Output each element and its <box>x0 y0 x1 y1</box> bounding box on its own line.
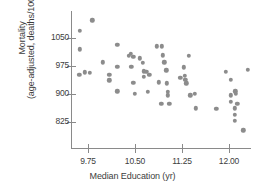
data-point <box>88 71 92 75</box>
x-tick-label: 9.75 <box>80 156 96 166</box>
data-point <box>160 44 164 48</box>
data-point <box>78 47 82 51</box>
data-point <box>90 18 94 22</box>
data-point <box>167 102 171 106</box>
data-point <box>77 72 81 76</box>
data-point <box>142 75 146 79</box>
data-point <box>147 73 151 77</box>
data-point <box>160 53 164 57</box>
data-point <box>187 53 191 57</box>
x-tick-label: 12.00 <box>219 156 239 166</box>
y-tick-label: 1050 <box>51 32 69 42</box>
x-tick-label: 10.50 <box>125 156 145 166</box>
data-point <box>165 93 169 97</box>
data-point <box>155 44 159 48</box>
data-point <box>145 90 149 94</box>
data-point <box>157 80 161 84</box>
data-point <box>115 43 119 47</box>
data-point <box>101 60 105 64</box>
data-point <box>232 119 236 123</box>
x-tick-mark <box>135 144 136 153</box>
data-point <box>214 106 218 110</box>
data-point <box>140 60 144 64</box>
data-point <box>115 65 119 69</box>
data-point <box>165 81 169 85</box>
data-point <box>229 100 233 104</box>
data-point <box>131 55 135 59</box>
data-point <box>184 81 188 85</box>
data-point <box>131 81 135 85</box>
data-point <box>229 78 233 82</box>
x-tick-mark <box>229 144 230 153</box>
data-point <box>107 73 111 77</box>
data-point <box>129 65 133 69</box>
y-tick-label: 900 <box>55 88 69 98</box>
scatter-plot-figure: 1050975900825 9.7510.5011.2512.00 Mortal… <box>0 0 265 190</box>
y-axis-title-line2-text: (age-adjusted, deaths/100 000) <box>26 0 36 99</box>
x-tick-mark <box>88 144 89 153</box>
x-tick-mark <box>182 144 183 153</box>
data-point <box>115 89 119 93</box>
data-point <box>133 91 137 95</box>
data-point <box>107 78 111 82</box>
y-axis-title-line2: (age-adjusted, deaths/100 000) <box>23 0 39 103</box>
y-tick-label: 975 <box>55 60 69 70</box>
data-point <box>78 28 82 32</box>
data-point <box>159 102 163 106</box>
data-point <box>194 106 198 110</box>
y-tick-label: 825 <box>55 116 69 126</box>
y-axis-line <box>71 11 72 149</box>
data-point <box>164 68 168 72</box>
data-point <box>246 68 250 72</box>
x-axis-line <box>71 148 251 149</box>
data-point <box>232 112 236 116</box>
data-point <box>182 65 186 69</box>
data-point <box>232 106 236 110</box>
data-point <box>83 70 87 74</box>
data-point <box>234 92 238 96</box>
data-point <box>192 91 196 95</box>
data-point <box>229 93 233 97</box>
data-point <box>162 60 166 64</box>
x-axis-title: Median Education (yr) <box>0 171 265 181</box>
data-point <box>224 70 228 74</box>
x-tick-label: 11.25 <box>172 156 192 166</box>
data-point <box>235 102 239 106</box>
data-point <box>241 128 245 132</box>
